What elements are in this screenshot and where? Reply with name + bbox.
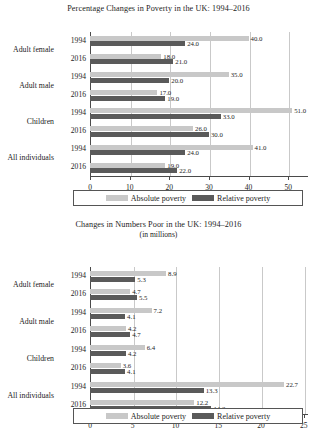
x-axis-tick: [130, 177, 131, 180]
bar-value-label: 13.3: [206, 387, 218, 394]
bar-value-label: 51.0: [294, 107, 306, 114]
bar-relative: [90, 332, 130, 337]
chart-subtitle-numbers: (in millions): [0, 230, 317, 239]
bar-relative: [90, 314, 125, 319]
legend-label-absolute: Absolute poverty: [131, 412, 186, 421]
legend-item-absolute: Absolute poverty: [106, 194, 186, 203]
bar-relative: [90, 41, 185, 46]
gridline: [219, 267, 220, 414]
chart-title-percentage: Percentage Changes in Poverty in the UK:…: [0, 0, 317, 14]
y-axis-year-label: 2016: [56, 55, 86, 63]
bar-value-label: 5.5: [139, 294, 148, 301]
legend-percentage: Absolute poverty Relative poverty: [73, 190, 303, 206]
bar-value-label: 35.0: [231, 71, 243, 78]
bar-absolute: [90, 289, 130, 294]
bar-value-label: 40.0: [251, 35, 263, 42]
bar-value-label: 30.0: [211, 131, 223, 138]
legend-item-relative: Relative poverty: [192, 194, 270, 203]
x-axis-tick: [249, 177, 250, 180]
bar-value-label: 24.0: [187, 40, 199, 47]
gridline: [305, 267, 306, 414]
y-axis-year-label: 1994: [56, 346, 86, 354]
bar-absolute: [90, 308, 152, 313]
bar-relative: [90, 114, 221, 119]
bar-relative: [90, 295, 137, 300]
plot-area-numbers: 05101520258.95.319944.75.520167.24.11994…: [0, 239, 317, 427]
legend-swatch-relative-icon: [192, 195, 214, 201]
bar-absolute: [90, 90, 157, 95]
bar-relative: [90, 78, 169, 83]
y-axis-year-label: 2016: [56, 91, 86, 99]
legend-swatch-absolute-icon: [106, 413, 128, 419]
plot-area-percentage: 0102030405040.024.0199418.021.0201635.02…: [0, 14, 317, 199]
bar-value-label: 5.3: [137, 276, 146, 283]
y-axis-year-label: 1994: [56, 309, 86, 317]
bar-relative: [90, 59, 173, 64]
y-axis-category-label: Adult male: [0, 82, 54, 90]
y-axis-year-label: 1994: [56, 383, 86, 391]
bar-absolute: [90, 163, 165, 168]
x-axis-tick: [288, 177, 289, 180]
legend-label-relative: Relative poverty: [217, 194, 270, 203]
y-axis-year-label: 2016: [56, 327, 86, 335]
legend-swatch-absolute-icon: [106, 195, 128, 201]
x-axis-tick: [90, 177, 91, 180]
legend-item-absolute: Absolute poverty: [106, 412, 186, 421]
bar-value-label: 4.1: [127, 368, 136, 375]
bar-value-label: 8.9: [168, 270, 177, 277]
y-axis-category-label: Children: [0, 118, 54, 126]
x-axis-tick: [169, 177, 170, 180]
numbers-poor-chart: Changes in Numbers Poor in the UK: 1994–…: [0, 215, 317, 440]
bar-absolute: [90, 271, 166, 276]
bar-value-label: 7.2: [154, 307, 163, 314]
gridline: [262, 267, 263, 414]
bar-relative: [90, 96, 165, 101]
bar-absolute: [90, 36, 249, 41]
y-axis-category-label: All individuals: [0, 392, 54, 400]
chart-title-numbers: Changes in Numbers Poor in the UK: 1994–…: [0, 215, 317, 230]
bar-absolute: [90, 382, 284, 387]
y-axis-year-label: 2016: [56, 163, 86, 171]
bar-relative: [90, 132, 209, 137]
bar-absolute: [90, 145, 253, 150]
y-axis-year-label: 2016: [56, 290, 86, 298]
y-axis-year-label: 2016: [56, 127, 86, 135]
y-axis-year-label: 1994: [56, 272, 86, 280]
bar-value-label: 4.2: [128, 350, 137, 357]
bar-value-label: 33.0: [223, 113, 235, 120]
bar-relative: [90, 168, 177, 173]
bar-value-label: 6.4: [147, 344, 156, 351]
bar-absolute: [90, 72, 229, 77]
bar-value-label: 22.7: [286, 381, 298, 388]
y-axis-category-label: All individuals: [0, 154, 54, 162]
y-axis-year-label: 1994: [56, 73, 86, 81]
bar-absolute: [90, 400, 194, 405]
y-axis-year-label: 1994: [56, 109, 86, 117]
gridline: [250, 32, 251, 176]
bar-relative: [90, 351, 126, 356]
x-axis-tick: [209, 177, 210, 180]
bar-value-label: 24.0: [187, 149, 199, 156]
bar-value-label: 4.7: [132, 331, 141, 338]
bar-relative: [90, 277, 135, 282]
bar-value-label: 21.0: [175, 58, 187, 65]
bar-value-label: 19.0: [167, 95, 179, 102]
bar-value-label: 22.0: [179, 167, 191, 174]
bar-relative: [90, 388, 204, 393]
bar-value-label: 41.0: [255, 144, 267, 151]
y-axis-year-label: 1994: [56, 145, 86, 153]
legend-item-relative: Relative poverty: [192, 412, 270, 421]
y-axis-category-label: Adult female: [0, 46, 54, 54]
bar-absolute: [90, 363, 121, 368]
legend-label-relative: Relative poverty: [217, 412, 270, 421]
legend-label-absolute: Absolute poverty: [131, 194, 186, 203]
y-axis-category-label: Adult female: [0, 281, 54, 289]
y-axis-category-label: Children: [0, 355, 54, 363]
gridline: [289, 32, 290, 176]
bar-absolute: [90, 345, 145, 350]
percentage-changes-chart: Percentage Changes in Poverty in the UK:…: [0, 0, 317, 215]
legend-numbers: Absolute poverty Relative poverty: [73, 408, 303, 424]
bar-absolute: [90, 126, 193, 131]
bar-absolute: [90, 54, 161, 59]
y-axis-year-label: 2016: [56, 364, 86, 372]
